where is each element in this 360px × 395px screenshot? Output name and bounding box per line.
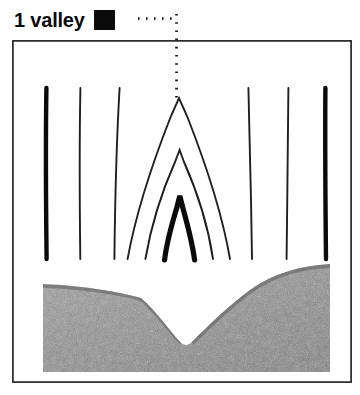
terrain-speckle: [43, 264, 330, 372]
contour-line-1-thick: [46, 88, 47, 259]
contour-lines-group: [46, 88, 326, 260]
contour-line-2: [80, 88, 81, 259]
filled-square-marker-icon: [94, 10, 115, 30]
dotted-leader-line-horizontal-icon: [138, 17, 178, 20]
contour-line-5: [287, 88, 289, 259]
valley-drawing: [12, 40, 352, 383]
valley-cross-section: [43, 264, 330, 372]
contour-line-3: [114, 88, 119, 259]
figure-1-valley: 1 valley: [0, 0, 360, 395]
contour-vee-outer: [128, 98, 230, 259]
contour-line-4: [248, 88, 252, 259]
contour-vee-inner-thick: [165, 196, 195, 260]
figure-caption: 1 valley: [14, 4, 115, 36]
page-title: 1 valley: [14, 10, 85, 30]
contour-line-6-thick: [325, 88, 326, 259]
